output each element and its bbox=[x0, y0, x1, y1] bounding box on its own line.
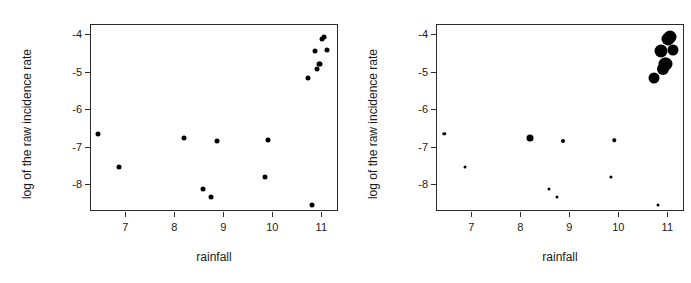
data-point bbox=[309, 203, 314, 208]
data-point bbox=[660, 57, 673, 70]
data-point bbox=[464, 166, 467, 169]
data-point bbox=[96, 131, 101, 136]
y-tick-mark bbox=[85, 109, 90, 110]
panel-left-uniform-scatter: -4-5-6-7-8 7891011 rainfall log of the r… bbox=[0, 0, 345, 283]
data-point bbox=[117, 165, 122, 170]
y-tick-mark bbox=[85, 184, 90, 185]
x-tick-label: 8 bbox=[517, 222, 523, 233]
y-tick-mark bbox=[431, 72, 436, 73]
data-point bbox=[648, 73, 659, 84]
y-tick-label: -7 bbox=[72, 141, 82, 152]
data-point bbox=[561, 139, 565, 143]
data-point bbox=[527, 135, 534, 142]
y-axis-tick-labels-right: -4-5-6-7-8 bbox=[398, 0, 428, 283]
y-axis-title-right: log of the raw incidence rate bbox=[366, 29, 380, 219]
data-point bbox=[266, 138, 271, 143]
x-tick-mark bbox=[125, 212, 126, 217]
x-tick-label: 11 bbox=[662, 222, 673, 233]
x-tick-label: 10 bbox=[612, 222, 624, 233]
y-tick-label: -7 bbox=[418, 141, 428, 152]
y-axis-tick-labels-left: -4-5-6-7-8 bbox=[52, 0, 82, 283]
x-tick-mark bbox=[618, 212, 619, 217]
data-point bbox=[668, 45, 679, 56]
x-tick-label: 9 bbox=[566, 222, 572, 233]
data-point bbox=[656, 204, 659, 207]
data-point bbox=[315, 67, 320, 72]
x-tick-mark bbox=[223, 212, 224, 217]
y-tick-label: -5 bbox=[418, 66, 428, 77]
x-tick-mark bbox=[471, 212, 472, 217]
x-tick-mark bbox=[174, 212, 175, 217]
y-tick-label: -5 bbox=[72, 66, 82, 77]
x-tick-label: 8 bbox=[171, 222, 177, 233]
data-point bbox=[555, 195, 558, 198]
y-tick-label: -4 bbox=[72, 29, 82, 40]
data-point bbox=[305, 76, 310, 81]
data-point bbox=[443, 132, 446, 135]
panel-right-proportional-scatter: -4-5-6-7-8 7891011 rainfall log of the r… bbox=[346, 0, 691, 283]
y-tick-mark bbox=[431, 34, 436, 35]
y-tick-label: -6 bbox=[72, 104, 82, 115]
figure-two-panel-scatter: -4-5-6-7-8 7891011 rainfall log of the r… bbox=[0, 0, 691, 283]
x-tick-label: 9 bbox=[220, 222, 226, 233]
data-points-left bbox=[90, 24, 338, 211]
x-tick-label: 7 bbox=[122, 222, 128, 233]
data-point bbox=[547, 187, 550, 190]
data-point bbox=[655, 45, 668, 58]
y-tick-label: -8 bbox=[418, 179, 428, 190]
x-tick-mark bbox=[667, 212, 668, 217]
y-tick-label: -4 bbox=[418, 29, 428, 40]
data-point bbox=[200, 186, 205, 191]
x-tick-mark bbox=[321, 212, 322, 217]
x-tick-mark bbox=[520, 212, 521, 217]
data-point bbox=[208, 194, 213, 199]
data-point bbox=[609, 175, 612, 178]
data-points-right bbox=[436, 24, 684, 211]
y-tick-mark bbox=[85, 72, 90, 73]
x-axis-title-right: rainfall bbox=[436, 250, 684, 264]
data-point bbox=[321, 34, 326, 39]
x-tick-label: 10 bbox=[266, 222, 278, 233]
y-tick-mark bbox=[431, 109, 436, 110]
x-tick-label: 7 bbox=[468, 222, 474, 233]
data-point bbox=[325, 48, 330, 53]
x-tick-label: 11 bbox=[316, 222, 327, 233]
data-point bbox=[262, 174, 267, 179]
x-tick-mark bbox=[569, 212, 570, 217]
data-point bbox=[663, 30, 676, 43]
y-tick-label: -8 bbox=[72, 179, 82, 190]
data-point bbox=[215, 139, 220, 144]
y-tick-label: -6 bbox=[418, 104, 428, 115]
data-point bbox=[182, 136, 187, 141]
data-point bbox=[313, 49, 318, 54]
data-point bbox=[318, 61, 323, 66]
y-tick-mark bbox=[85, 147, 90, 148]
y-axis-title-left: log of the raw incidence rate bbox=[20, 29, 34, 219]
x-tick-mark bbox=[272, 212, 273, 217]
x-axis-title-left: rainfall bbox=[90, 250, 338, 264]
y-tick-mark bbox=[85, 34, 90, 35]
y-tick-mark bbox=[431, 147, 436, 148]
data-point bbox=[613, 139, 616, 142]
y-tick-mark bbox=[431, 184, 436, 185]
